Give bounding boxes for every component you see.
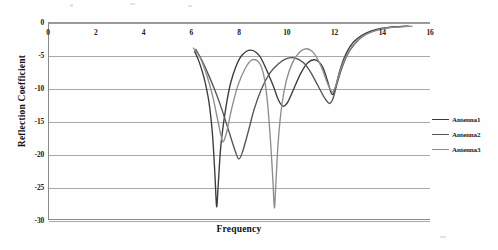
legend-line-swatch [432,134,449,135]
x-axis-tick-label: 4 [142,28,146,37]
scan-artifact [70,4,73,7]
x-axis-tick-label: 12 [331,28,338,37]
legend-item[interactable]: Antenna3 [432,142,496,157]
y-axis-tick-label: -25 [14,183,44,192]
scan-artifact [130,3,135,5]
scan-artifact [188,5,192,7]
x-axis-title: Frequency [48,224,430,234]
x-axis-tick-label: 14 [379,28,386,37]
legend-line-swatch [432,119,449,120]
legend-line-swatch [432,149,449,150]
x-axis-tick-label: 0 [46,28,50,37]
y-axis-tick-label: -30 [14,216,44,225]
x-axis-tick-label: 16 [426,28,433,37]
legend-item-label: Antenna2 [452,131,480,139]
x-axis-ticks: 0246810121416 [48,28,430,42]
x-axis-tick-label: 10 [283,28,290,37]
series-line [193,26,411,208]
series-line [195,26,407,206]
series-curves [49,23,431,221]
plot-area [48,22,430,220]
y-axis-title: Reflection Coefficient [17,35,27,167]
x-axis-tick-label: 8 [237,28,241,37]
x-axis-tick-label: 6 [189,28,193,37]
y-axis-tick-label: 0 [14,18,44,27]
chart-legend: Antenna1Antenna2Antenna3 [432,112,496,157]
gridline [49,221,430,222]
legend-item-label: Antenna1 [452,116,480,124]
legend-item[interactable]: Antenna2 [432,127,496,142]
legend-item[interactable]: Antenna1 [432,112,496,127]
scan-artifact [440,236,446,238]
reflection-coefficient-chart: 0-5-10-15-20-25-30 0246810121416 Reflect… [0,0,498,250]
legend-item-label: Antenna3 [452,146,480,154]
x-axis-tick-label: 2 [94,28,98,37]
